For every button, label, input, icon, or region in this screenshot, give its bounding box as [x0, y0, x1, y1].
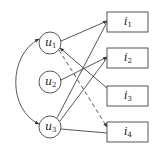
edge-u2-i2 [61, 57, 107, 80]
item-node-i1: i1 [107, 12, 148, 32]
item-node-i4: i4 [107, 122, 148, 142]
bipartite-graph-diagram: u1 u2 u3 i1 i2 i3 i4 [0, 0, 159, 153]
edge-u3-i1 [57, 22, 107, 118]
item-node-i2: i2 [107, 48, 148, 68]
edge-u3-i4 [61, 129, 107, 133]
user-node-u1: u1 [39, 32, 61, 54]
item-node-i3: i3 [107, 86, 148, 106]
edge-u1-u3-curved [16, 39, 39, 124]
edge-u1-i4-dashed [59, 50, 107, 127]
user-node-u2: u2 [39, 71, 61, 93]
edge-u1-i1 [61, 21, 107, 41]
user-node-u3: u3 [39, 116, 61, 138]
